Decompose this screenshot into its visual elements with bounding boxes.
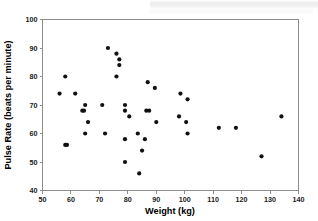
y-tick-label: 90 xyxy=(30,44,38,53)
data-point xyxy=(178,92,182,96)
y-tick-label: 100 xyxy=(26,15,38,24)
x-tick-label: 120 xyxy=(236,195,248,204)
x-tick-label: 110 xyxy=(207,195,219,204)
y-axis-title: Pulse Rate (beats per minute) xyxy=(3,40,13,169)
axes-lines xyxy=(43,20,299,191)
data-point xyxy=(57,92,61,96)
x-tick-label: 50 xyxy=(39,195,47,204)
data-point xyxy=(73,92,77,96)
x-tick-label: 130 xyxy=(264,195,276,204)
y-tick-label: 50 xyxy=(30,158,38,167)
data-point xyxy=(83,103,87,107)
y-tick-label: 80 xyxy=(30,72,38,81)
data-point xyxy=(65,143,69,147)
data-point xyxy=(217,126,221,130)
data-point xyxy=(137,171,141,175)
data-point xyxy=(123,109,127,113)
data-point xyxy=(147,109,151,113)
data-point xyxy=(146,80,150,84)
x-axis-title: Weight (kg) xyxy=(145,206,195,216)
data-point xyxy=(127,114,131,118)
data-point xyxy=(117,63,121,67)
data-point xyxy=(82,109,86,113)
data-point xyxy=(177,114,181,118)
data-point xyxy=(103,131,107,135)
data-point xyxy=(123,103,127,107)
y-tick-label: 70 xyxy=(30,101,38,110)
y-tick-label: 40 xyxy=(30,186,38,195)
data-point xyxy=(117,57,121,61)
data-point xyxy=(136,131,140,135)
data-point-group xyxy=(57,46,283,176)
data-point xyxy=(153,86,157,90)
data-point xyxy=(154,120,158,124)
y-axis-ticks: 405060708090100 xyxy=(26,15,43,195)
data-point xyxy=(259,154,263,158)
data-point xyxy=(114,74,118,78)
data-point xyxy=(114,52,118,56)
y-tick-label: 60 xyxy=(30,129,38,138)
data-point xyxy=(279,114,283,118)
data-point xyxy=(184,120,188,124)
data-point xyxy=(185,97,189,101)
data-point xyxy=(86,120,90,124)
data-point xyxy=(63,74,67,78)
data-point xyxy=(123,137,127,141)
data-point xyxy=(100,103,104,107)
x-tick-label: 90 xyxy=(152,195,160,204)
data-point xyxy=(234,126,238,130)
x-tick-label: 60 xyxy=(67,195,75,204)
x-tick-label: 70 xyxy=(95,195,103,204)
x-tick-label: 80 xyxy=(124,195,132,204)
data-point xyxy=(123,160,127,164)
scatter-plot-figure: 5060708090100110120130140 40506070809010… xyxy=(0,0,318,221)
data-point xyxy=(140,149,144,153)
data-point xyxy=(185,131,189,135)
data-point xyxy=(83,131,87,135)
x-axis-ticks: 5060708090100110120130140 xyxy=(39,191,305,204)
x-tick-label: 140 xyxy=(293,195,305,204)
plot-canvas: 5060708090100110120130140 40506070809010… xyxy=(0,0,318,221)
data-point xyxy=(106,46,110,50)
data-point xyxy=(143,137,147,141)
x-tick-label: 100 xyxy=(179,195,191,204)
